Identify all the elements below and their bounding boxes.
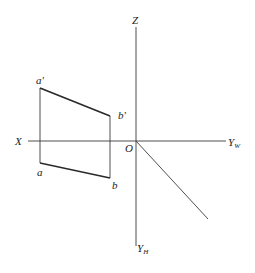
- top-view-segment-ab: [40, 163, 110, 178]
- front-view-segment-ab: [40, 88, 110, 116]
- point-b-prime-label: b': [118, 109, 127, 121]
- diagonal-45-line: [136, 141, 208, 219]
- z-axis-label: Z: [132, 14, 139, 26]
- point-b-label: b: [112, 179, 118, 191]
- x-axis-label: X: [14, 135, 23, 147]
- yw-axis-label: YW: [228, 136, 241, 150]
- origin-label: O: [125, 142, 133, 154]
- point-a-label: a: [37, 166, 43, 178]
- yh-axis-label: YH: [137, 242, 149, 256]
- projection-diagram: Z X O YW YH a' b' a b: [0, 0, 255, 273]
- point-a-prime-label: a': [36, 74, 45, 86]
